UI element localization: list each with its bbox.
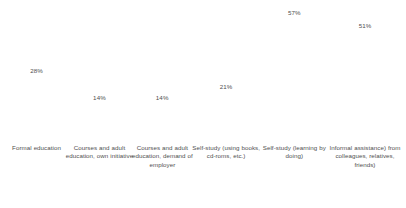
bar-column-courses-own-initiative: 14% (67, 0, 132, 136)
plot-area: 28% 14% 14% 21% 57% 51% (0, 0, 406, 136)
category-axis: Formal education Courses and adult educa… (0, 136, 406, 208)
category-label-informal-assistance: Informal assistance) from colleagues, re… (326, 144, 404, 169)
category-label-courses-employer-demand: Courses and adult education, demand of e… (128, 144, 197, 169)
bar-column-self-study-books: 21% (192, 0, 260, 136)
category-label-courses-own-initiative: Courses and adult education, own initiat… (65, 144, 134, 161)
bar-column-informal-assistance: 51% (328, 0, 402, 136)
bar-chart: 28% 14% 14% 21% 57% 51% Formal education… (0, 0, 406, 208)
category-label-self-study-books: Self-study (using books, cd-roms, etc.) (191, 144, 262, 161)
bar-column-formal-education: 28% (4, 0, 69, 136)
bar-value-label: 21% (192, 83, 260, 91)
bar-value-label: 14% (67, 94, 132, 102)
bar-courses-employer-demand (138, 102, 186, 136)
bar-courses-own-initiative (76, 102, 123, 136)
bar-value-label: 57% (262, 9, 327, 17)
bar-value-label: 51% (328, 22, 402, 30)
bar-value-label: 28% (4, 67, 69, 75)
bar-value-label: 14% (129, 94, 195, 102)
bar-self-study-books (202, 91, 251, 136)
category-label-self-study-learning-by-doing: Self-study (learning by doing) (262, 144, 327, 161)
bar-column-self-study-learning-by-doing: 57% (262, 0, 327, 136)
bar-self-study-learning-by-doing (271, 14, 318, 136)
category-label-formal-education: Formal education (4, 144, 69, 152)
bar-column-courses-employer-demand: 14% (129, 0, 195, 136)
bar-informal-assistance (338, 27, 391, 136)
bar-formal-education (13, 75, 60, 136)
